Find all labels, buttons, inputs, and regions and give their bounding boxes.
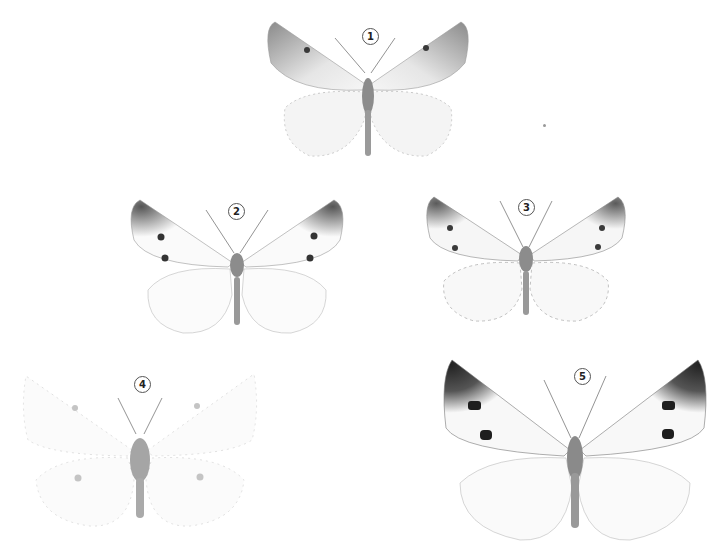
paper-speck — [543, 124, 546, 127]
specimen-number-label: 3 — [518, 199, 535, 216]
butterfly-4-illustration — [20, 370, 260, 530]
specimen-number-label: 1 — [362, 28, 379, 45]
butterfly-specimen-1: 1 — [265, 18, 471, 158]
butterfly-specimen-3: 3 — [424, 193, 630, 323]
butterfly-specimen-4: 4 — [20, 370, 260, 530]
butterfly-plate: 1 2 — [0, 0, 711, 556]
butterfly-specimen-2: 2 — [128, 195, 346, 335]
specimen-number-label: 5 — [574, 368, 591, 385]
butterfly-specimen-5: 5 — [440, 358, 710, 543]
specimen-number-label: 2 — [228, 203, 245, 220]
specimen-number-label: 4 — [134, 376, 151, 393]
butterfly-5-illustration — [440, 358, 710, 543]
